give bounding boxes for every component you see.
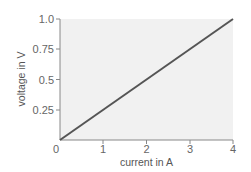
x-tick-label: 4 — [230, 143, 236, 155]
y-tick-label: 0.75 — [33, 43, 54, 55]
y-axis: 1.0 0.75 0.5 0.25 — [33, 13, 60, 140]
x-axis-label: current in A — [120, 156, 173, 168]
y-axis-label: voltage in V — [15, 52, 27, 107]
y-tick-label: 1.0 — [39, 13, 54, 25]
x-tick-label: 1 — [100, 143, 106, 155]
y-tick-label: 0.5 — [39, 74, 54, 86]
x-tick-label: 3 — [187, 143, 193, 155]
y-tick-label: 0.25 — [33, 104, 54, 116]
x-axis: 0 1 2 3 4 — [53, 140, 236, 155]
x-tick-label: 0 — [53, 143, 59, 155]
chart: 1.0 0.75 0.5 0.25 0 1 2 3 4 current in A… — [0, 0, 251, 172]
x-tick-label: 2 — [143, 143, 149, 155]
